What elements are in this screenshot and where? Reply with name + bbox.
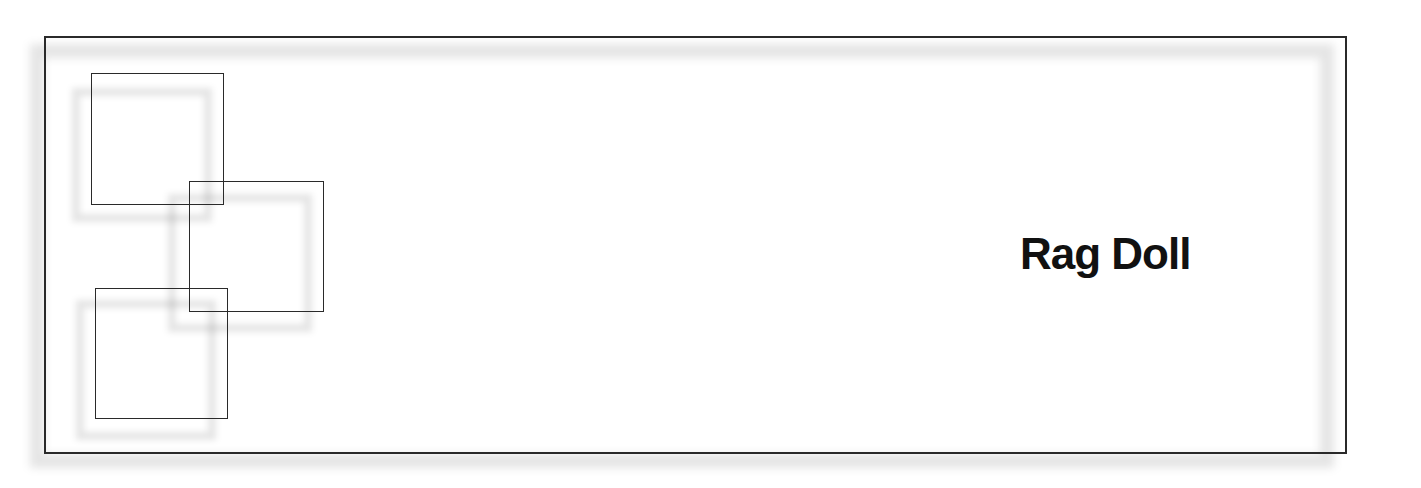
- square-bottom-left: [95, 288, 228, 419]
- card-canvas: Rag Doll: [0, 0, 1421, 488]
- card-title: Rag Doll: [1020, 232, 1190, 276]
